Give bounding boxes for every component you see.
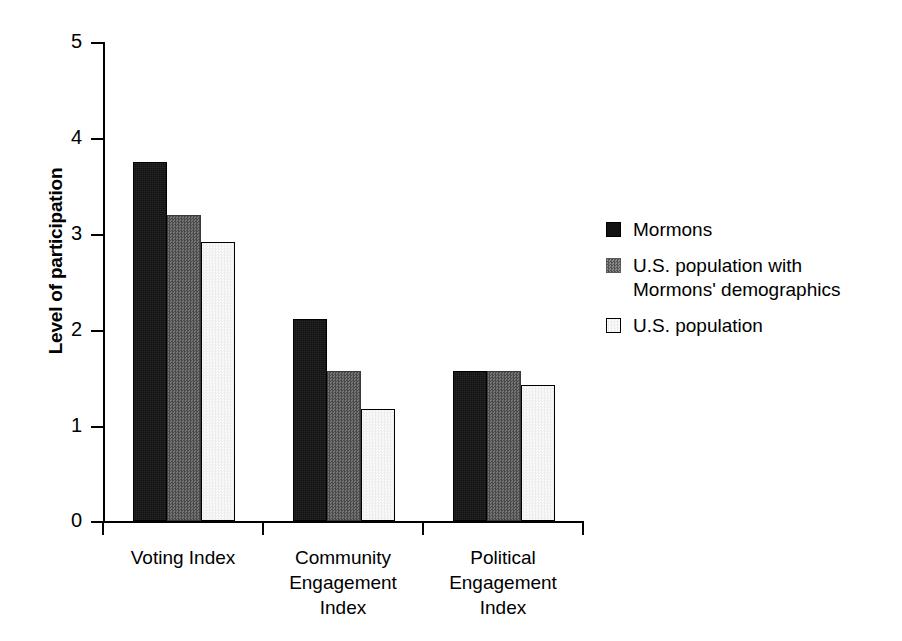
x-axis-line <box>103 521 584 523</box>
bar-community-mormons <box>293 319 327 521</box>
legend-item-us-population: U.S. population <box>606 314 896 338</box>
bar-chart-figure: Level of participation 5 4 3 2 1 0 <box>0 0 902 641</box>
bar-voting-mormons <box>133 162 167 521</box>
plot-area: 5 4 3 2 1 0 <box>103 42 583 522</box>
x-category-label-community-engagement-index: Community Engagement Index <box>263 545 423 620</box>
x-category-label-voting-index: Voting Index <box>103 545 263 570</box>
y-tick-5: 5 <box>91 42 103 44</box>
legend-label-us-population: U.S. population <box>633 314 763 338</box>
y-axis-line <box>103 42 105 522</box>
legend-label-mormons: Mormons <box>633 218 712 242</box>
y-tick-label-4: 4 <box>71 126 82 148</box>
bar-community-us-pop-demo <box>327 371 361 521</box>
legend-swatch-gray-icon <box>606 258 621 273</box>
bar-political-us-pop <box>521 385 555 521</box>
x-category-label-political-engagement-index: Political Engagement Index <box>423 545 583 620</box>
x-tick-sep-1 <box>262 521 264 535</box>
y-tick-2: 2 <box>91 330 103 332</box>
x-tick-start <box>102 521 104 535</box>
bar-voting-us-pop-demo <box>167 215 201 521</box>
bar-political-mormons <box>453 371 487 521</box>
legend-swatch-black-icon <box>606 222 621 237</box>
bar-political-us-pop-demo <box>487 371 521 521</box>
y-tick-label-5: 5 <box>71 30 82 52</box>
bar-voting-us-pop <box>201 242 235 521</box>
y-axis-label: Level of participation <box>45 111 67 411</box>
legend-swatch-white-icon <box>606 318 621 333</box>
legend-item-us-population-with-mormons-demographics: U.S. population with Mormons' demographi… <box>606 254 896 302</box>
bar-community-us-pop <box>361 409 395 521</box>
y-tick-label-2: 2 <box>71 318 82 340</box>
y-tick-label-3: 3 <box>71 222 82 244</box>
legend-label-us-population-with-mormons-demographics: U.S. population with Mormons' demographi… <box>633 254 840 302</box>
y-tick-1: 1 <box>91 426 103 428</box>
x-tick-sep-2 <box>422 521 424 535</box>
y-tick-4: 4 <box>91 138 103 140</box>
x-tick-end <box>582 521 584 535</box>
legend: Mormons U.S. population with Mormons' de… <box>606 218 896 350</box>
legend-item-mormons: Mormons <box>606 218 896 242</box>
y-tick-3: 3 <box>91 234 103 236</box>
y-tick-label-0: 0 <box>71 509 82 531</box>
y-tick-label-1: 1 <box>71 414 82 436</box>
